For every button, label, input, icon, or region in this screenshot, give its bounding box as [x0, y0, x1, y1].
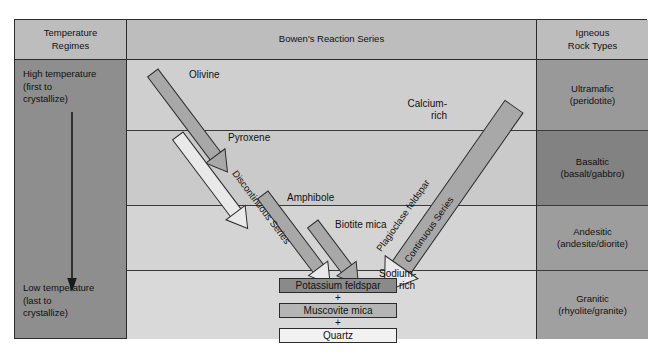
rock-type-rocks: (rhyolite/granite): [558, 305, 627, 318]
low-temp-line2: (last to: [23, 295, 127, 308]
low-temp-line3: crystallize): [23, 307, 127, 320]
bowens-reaction-series-diagram: Temperature Regimes High temperature (fi…: [14, 19, 647, 339]
low-temp-line1: Low temperature: [23, 282, 127, 295]
muscovite-mica-label: Muscovite mica: [304, 305, 373, 316]
product-potassium-feldspar: Potassium feldspar: [279, 278, 397, 293]
high-temp-line2: (first to: [23, 81, 127, 94]
pyroxene-label: Pyroxene: [228, 132, 270, 144]
igneous-rock-types-column: Igneous Rock Types Ultramafic (peridotit…: [536, 20, 648, 338]
bowens-series-title: Bowen's Reaction Series: [279, 33, 384, 46]
rock-type-ultramafic: Ultramafic (peridotite): [537, 60, 648, 130]
rock-type-name: Basaltic: [576, 156, 609, 169]
rock-type-name: Andesitic: [573, 226, 612, 239]
rock-type-andesitic: Andesitic (andesite/diorite): [537, 205, 648, 270]
calcium-rich-label: Calcium- rich: [385, 98, 447, 122]
calcium-rich-line2: rich: [385, 110, 447, 122]
amphibole-label: Amphibole: [287, 192, 334, 204]
bowens-series-column: Bowen's Reaction Series .ab { stroke:#2b…: [127, 20, 536, 338]
igneous-header-line1: Igneous: [576, 27, 610, 40]
bowens-series-header: Bowen's Reaction Series: [127, 20, 536, 60]
plus-separator-1: +: [279, 293, 397, 303]
rock-type-name: Granitic: [576, 293, 609, 306]
temperature-header-line2: Regimes: [52, 40, 90, 53]
plus-separator-2: +: [279, 318, 397, 328]
high-temperature-label: High temperature (first to crystallize): [23, 68, 127, 106]
temperature-down-arrow-icon: [65, 112, 79, 292]
rock-type-rocks: (andesite/diorite): [557, 238, 628, 251]
rock-type-basaltic: Basaltic (basalt/gabbro): [537, 130, 648, 205]
rock-type-name: Ultramafic: [571, 83, 614, 96]
temperature-header-line1: Temperature: [44, 27, 97, 40]
high-temp-line1: High temperature: [23, 68, 127, 81]
potassium-feldspar-label: Potassium feldspar: [295, 280, 380, 291]
calcium-rich-line1: Calcium-: [385, 98, 447, 110]
rock-type-rocks: (basalt/gabbro): [561, 168, 625, 181]
biotite-mica-label: Biotite mica: [335, 219, 387, 231]
high-temp-line3: crystallize): [23, 93, 127, 106]
olivine-label: Olivine: [189, 69, 220, 81]
igneous-rock-types-header: Igneous Rock Types: [537, 20, 648, 60]
product-quartz: Quartz: [279, 328, 397, 343]
product-muscovite-mica: Muscovite mica: [279, 303, 397, 318]
temperature-regimes-header: Temperature Regimes: [15, 20, 126, 60]
rock-type-granitic: Granitic (rhyolite/granite): [537, 270, 648, 339]
quartz-label: Quartz: [323, 330, 353, 341]
center-row-andesitic: [127, 205, 536, 270]
rock-type-rocks: (peridotite): [570, 95, 615, 108]
low-temperature-label: Low temperature (last to crystallize): [23, 282, 127, 320]
igneous-header-line2: Rock Types: [568, 40, 617, 53]
temperature-regimes-column: Temperature Regimes High temperature (fi…: [15, 20, 127, 338]
